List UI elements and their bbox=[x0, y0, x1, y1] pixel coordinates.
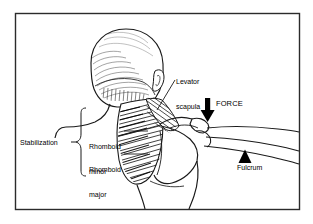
label-rhomboid-major-line1: Rhomboid bbox=[89, 166, 121, 174]
label-levator-scapula-line1: Levator bbox=[176, 78, 200, 86]
anatomical-figure: Levator scapula FORCE Fulcrum Stabilizat… bbox=[0, 0, 313, 224]
head-outline bbox=[91, 29, 163, 107]
label-force: FORCE bbox=[216, 100, 243, 108]
label-levator-scapula-line2: scapula bbox=[176, 103, 200, 111]
label-fulcrum: Fulcrum bbox=[237, 164, 262, 172]
label-rhomboid-major: Rhomboid major bbox=[89, 150, 121, 216]
label-stabilization: Stabilization bbox=[20, 139, 58, 147]
label-levator-scapula: Levator scapula bbox=[176, 62, 200, 128]
figure-artwork bbox=[0, 0, 313, 224]
label-rhomboid-major-line2: major bbox=[89, 191, 121, 199]
